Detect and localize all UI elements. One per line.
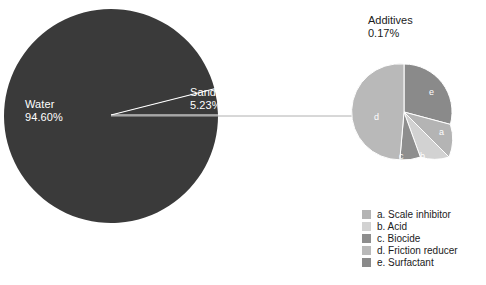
legend-label-c: c. Biocide	[377, 233, 420, 244]
legend-item-b[interactable]: b. Acid	[362, 220, 486, 232]
additives-wedge-letter-b: b	[420, 152, 425, 161]
water-label-name: Water	[25, 98, 63, 111]
legend-swatch-e-icon	[362, 258, 371, 267]
additives-wedge-letter-a: a	[439, 128, 444, 137]
main-pie-label-water: Water 94.60%	[25, 98, 63, 124]
additives-wedge-letter-e: e	[429, 88, 434, 97]
figure-canvas: Water 94.60% Sand 5.23% Additives 0.17% …	[0, 0, 486, 285]
legend-label-d: d. Friction reducer	[377, 245, 458, 256]
additives-legend: a. Scale inhibitor b. Acid c. Biocide d.…	[362, 208, 486, 268]
water-label-percent: 94.60%	[25, 111, 63, 124]
legend-swatch-a-icon	[362, 210, 371, 219]
additives-pie-title: Additives 0.17%	[368, 14, 413, 40]
legend-item-c[interactable]: c. Biocide	[362, 232, 486, 244]
legend-label-e: e. Surfactant	[377, 257, 434, 268]
legend-item-d[interactable]: d. Friction reducer	[362, 244, 486, 256]
sand-label-name: Sand	[190, 86, 222, 99]
legend-swatch-b-icon	[362, 222, 371, 231]
legend-swatch-c-icon	[362, 234, 371, 243]
additives-title-name: Additives	[368, 14, 413, 27]
legend-item-e[interactable]: e. Surfactant	[362, 256, 486, 268]
legend-item-a[interactable]: a. Scale inhibitor	[362, 208, 486, 220]
legend-label-a: a. Scale inhibitor	[377, 209, 451, 220]
additives-wedge-letter-c: c	[399, 152, 404, 161]
legend-label-b: b. Acid	[377, 221, 407, 232]
legend-swatch-d-icon	[362, 246, 371, 255]
sand-label-percent: 5.23%	[190, 99, 222, 112]
additives-wedge-letter-d: d	[374, 113, 379, 122]
main-pie-label-sand: Sand 5.23%	[190, 86, 222, 112]
additives-title-percent: 0.17%	[368, 27, 413, 40]
additives-pie-group	[352, 64, 453, 160]
